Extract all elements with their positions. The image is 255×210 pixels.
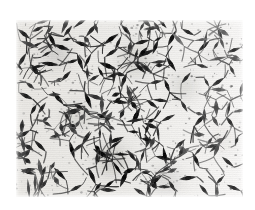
film-grain (16, 20, 243, 197)
micrograph-image (16, 20, 243, 197)
micrograph-figure (16, 20, 243, 197)
page-canvas (0, 0, 255, 210)
figure-caption (16, 199, 243, 207)
